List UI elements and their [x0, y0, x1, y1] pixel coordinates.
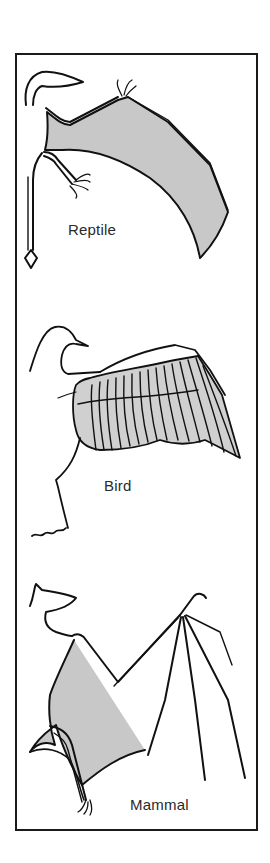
wing-comparison-illustration	[0, 0, 270, 863]
reptile-illustration	[25, 72, 228, 268]
mammal-illustration	[30, 584, 245, 815]
label-bird: Bird	[104, 477, 131, 494]
mammal-wing-membrane	[30, 640, 145, 785]
label-mammal: Mammal	[130, 796, 189, 813]
label-reptile: Reptile	[68, 221, 116, 238]
bird-illustration	[30, 327, 240, 536]
